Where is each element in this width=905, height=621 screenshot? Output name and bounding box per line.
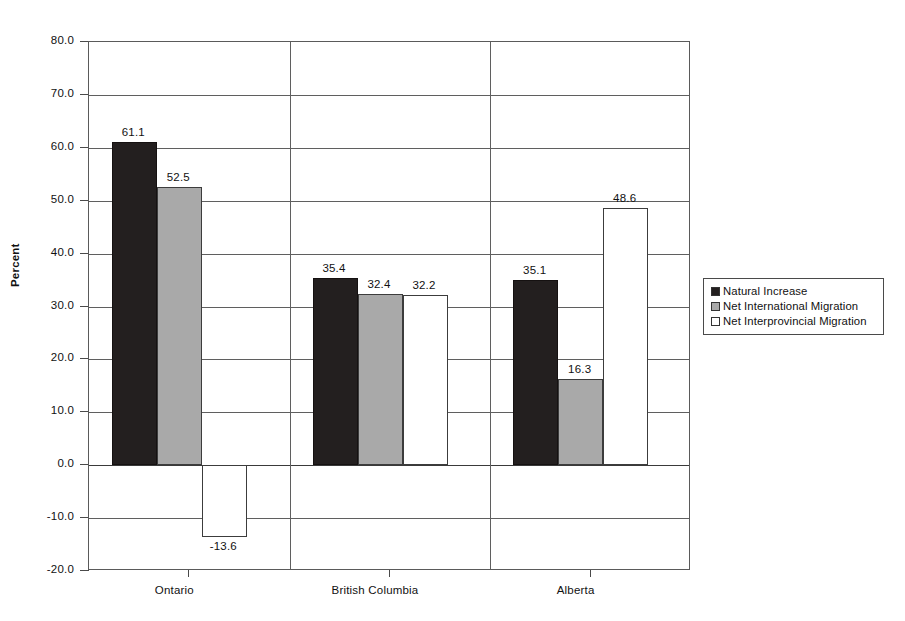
bar-value-label: 61.1 bbox=[99, 126, 168, 138]
gridline bbox=[89, 465, 689, 466]
x-axis-tick bbox=[389, 570, 390, 577]
y-axis-tick-label: 30.0 bbox=[8, 300, 74, 312]
y-axis-tick bbox=[80, 570, 89, 571]
legend-item: Net Interprovincial Migration bbox=[711, 314, 877, 328]
gridline bbox=[89, 148, 689, 149]
legend-item: Natural Increase bbox=[711, 284, 877, 298]
legend: Natural Increase Net International Migra… bbox=[703, 278, 884, 335]
y-axis-tick-label: 10.0 bbox=[8, 405, 74, 417]
y-axis-tick-label: 70.0 bbox=[8, 88, 74, 100]
y-axis-tick-label: 50.0 bbox=[8, 194, 74, 206]
y-axis-tick-label: 60.0 bbox=[8, 141, 74, 153]
bar bbox=[313, 278, 358, 465]
legend-swatch-icon bbox=[711, 317, 720, 326]
bar-value-label: 32.2 bbox=[390, 279, 459, 291]
legend-item-label: Net Interprovincial Migration bbox=[723, 315, 867, 327]
x-axis-tick bbox=[188, 570, 189, 577]
bar bbox=[112, 142, 157, 465]
bar-value-label: 48.6 bbox=[590, 192, 659, 204]
x-axis-category-label: Ontario bbox=[84, 584, 264, 596]
bar-value-label: 35.1 bbox=[500, 264, 569, 276]
bar-value-label: 16.3 bbox=[545, 363, 614, 375]
bar bbox=[157, 187, 202, 465]
bar bbox=[558, 379, 603, 465]
bar-value-label: 35.4 bbox=[300, 262, 369, 274]
category-separator bbox=[290, 42, 291, 569]
legend-swatch-icon bbox=[711, 287, 720, 296]
x-axis-tick bbox=[590, 570, 591, 577]
bar bbox=[358, 294, 403, 465]
x-axis-category-label: Alberta bbox=[486, 584, 666, 596]
category-separator bbox=[490, 42, 491, 569]
x-axis-category-label: British Columbia bbox=[285, 584, 465, 596]
y-axis-tick-label: 40.0 bbox=[8, 247, 74, 259]
y-axis-tick-label: -20.0 bbox=[8, 564, 74, 576]
bar bbox=[202, 465, 247, 537]
y-axis-tick-label: -10.0 bbox=[8, 511, 74, 523]
gridline bbox=[89, 95, 689, 96]
y-axis-tick-label: 20.0 bbox=[8, 352, 74, 364]
bar-value-label: 52.5 bbox=[144, 171, 213, 183]
bar-value-label: -13.6 bbox=[189, 540, 258, 552]
legend-swatch-icon bbox=[711, 302, 720, 311]
gridline bbox=[89, 518, 689, 519]
bar bbox=[403, 295, 448, 465]
bar bbox=[603, 208, 648, 465]
legend-item-label: Net International Migration bbox=[723, 300, 858, 312]
y-axis-tick-label: 0.0 bbox=[8, 458, 74, 470]
bar-chart: Percent 80.070.060.050.040.030.020.010.0… bbox=[0, 0, 905, 621]
legend-item-label: Natural Increase bbox=[723, 285, 807, 297]
y-axis-tick-label: 80.0 bbox=[8, 35, 74, 47]
plot-area bbox=[88, 41, 690, 570]
legend-item: Net International Migration bbox=[711, 299, 877, 313]
